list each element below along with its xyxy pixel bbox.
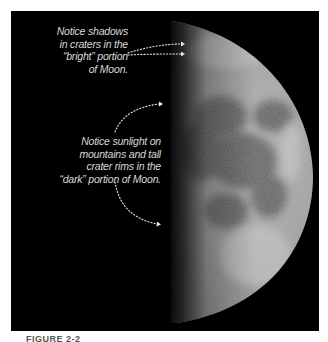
figure-caption: FIGURE 2-2	[26, 334, 81, 342]
arrow-sunlight-down	[115, 182, 157, 224]
arrowhead-icon	[157, 222, 162, 227]
arrow-sunlight-up	[115, 104, 159, 132]
callout-shadows: Notice shadows in craters in the “bright…	[18, 25, 128, 75]
moon-disc	[161, 11, 319, 331]
callout-sunlight: Notice sunlight on mountains and tall cr…	[21, 135, 161, 185]
moon-figure: Notice shadows in craters in the “bright…	[11, 11, 319, 331]
arrowhead-icon	[159, 102, 163, 107]
